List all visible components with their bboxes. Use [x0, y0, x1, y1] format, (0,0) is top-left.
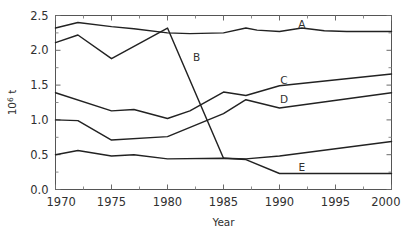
chart-container: ABCDE 0.00.51.01.52.02.51970197519801985…: [0, 0, 412, 240]
axis-text-layer: 0.00.51.01.52.02.51970197519801985199019…: [6, 9, 401, 228]
series-line-a: [56, 22, 392, 33]
series-layer: [56, 22, 392, 173]
x-tick-label: 1985: [209, 195, 238, 209]
x-tick-label: 1990: [265, 195, 294, 209]
y-tick-label: 1.0: [30, 113, 48, 127]
series-line-d: [56, 93, 392, 140]
series-label-e: E: [299, 161, 306, 173]
x-tick-label: 1995: [321, 195, 350, 209]
y-tick-label: 0.5: [30, 148, 48, 162]
axis-layer: [56, 16, 392, 190]
y-axis-title: 106 t: [6, 90, 19, 116]
series-label-d: D: [280, 93, 288, 105]
y-tick-label: 1.5: [30, 78, 48, 92]
y-tick-label: 2.5: [30, 9, 48, 23]
series-line-c: [56, 74, 392, 119]
x-tick-label: 2000: [371, 195, 400, 209]
x-axis-title: Year: [211, 216, 235, 228]
series-line-f: [224, 141, 392, 158]
series-label-b: B: [193, 51, 200, 63]
y-tick-label: 2.0: [30, 43, 48, 57]
x-tick-label: 1970: [47, 195, 76, 209]
series-label-c: C: [280, 74, 287, 86]
x-tick-label: 1980: [153, 195, 182, 209]
plot-frame: [56, 16, 392, 190]
line-chart: ABCDE 0.00.51.01.52.02.51970197519801985…: [0, 0, 412, 240]
series-line-e: [56, 151, 392, 174]
series-label-a: A: [298, 18, 306, 30]
x-tick-label: 1975: [97, 195, 126, 209]
